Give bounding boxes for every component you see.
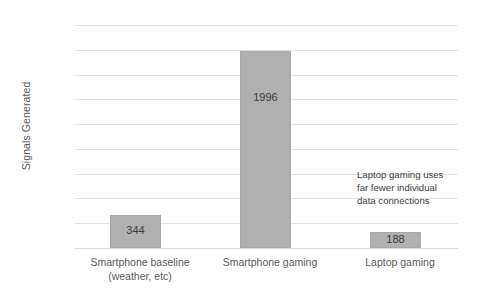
bar-slot: 1996 [240, 25, 291, 248]
bar-value-label: 188 [370, 233, 421, 245]
category-label-line: Laptop gaming [320, 255, 478, 269]
y-axis-title: Signals Generated [20, 46, 32, 206]
bar-value-label: 1996 [240, 91, 291, 103]
plot-area: 344 1996 188 [75, 25, 458, 248]
x-category-label-laptop-gaming: Laptop gaming [320, 255, 478, 269]
annotation-line: far fewer individual [357, 181, 469, 194]
zero-baseline [75, 248, 458, 249]
chart-annotation: Laptop gaming uses far fewer individual … [357, 168, 469, 208]
bar-slot: 344 [110, 25, 161, 248]
bar-value-label: 344 [110, 224, 161, 236]
category-label-line: (weather, etc) [60, 269, 220, 283]
bars-layer: 344 1996 188 [75, 25, 458, 248]
bar-slot: 188 [370, 25, 421, 248]
bar-chart: Signals Generated 4500 4000 3500 3000 25… [0, 0, 478, 301]
annotation-line: data connections [357, 194, 469, 207]
annotation-line: Laptop gaming uses [357, 168, 469, 181]
bar-smartphone-gaming[interactable] [240, 51, 291, 248]
